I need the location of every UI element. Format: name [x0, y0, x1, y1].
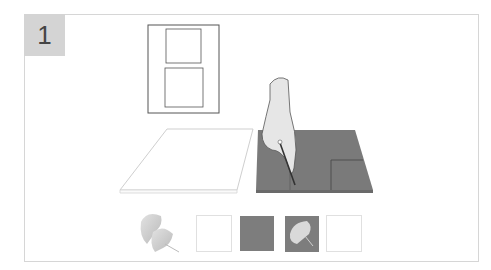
layout-sketch: [148, 25, 219, 113]
leaf-on-gray-swatch: [285, 216, 319, 252]
gray-card-swatch: [240, 216, 274, 251]
ginkgo-leaves-icon: [135, 210, 185, 255]
ginkgo-leaf-icon: [285, 216, 319, 252]
white-board: [120, 129, 253, 193]
white-card-swatch-2: [326, 215, 362, 252]
white-card-swatch: [196, 215, 232, 252]
